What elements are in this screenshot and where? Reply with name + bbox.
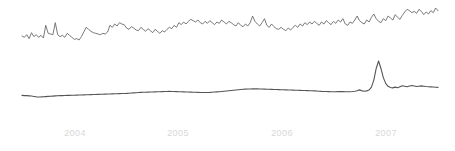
- sparkline-chart: 2004 2005 2006 2007: [0, 0, 455, 151]
- chart-plot-area: [0, 0, 455, 151]
